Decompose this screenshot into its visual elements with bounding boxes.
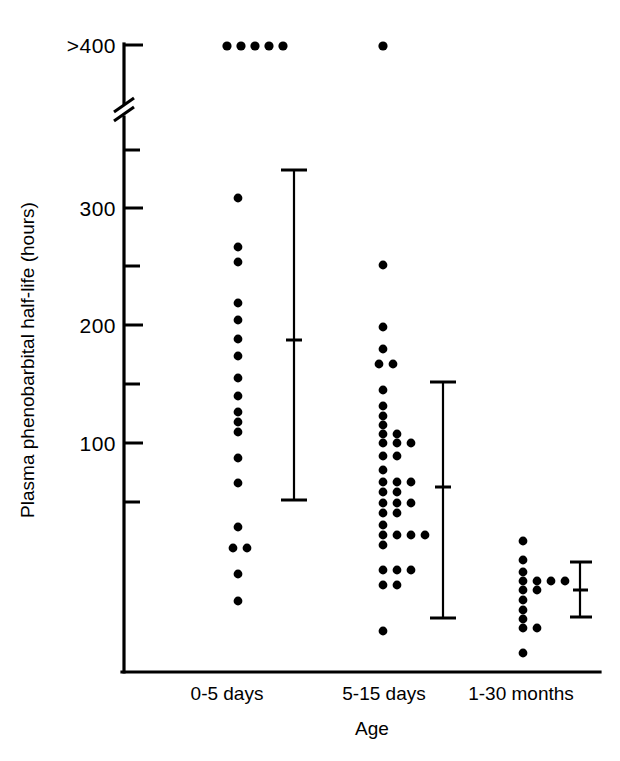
data-point xyxy=(234,374,243,383)
data-point xyxy=(561,577,570,586)
data-point xyxy=(393,488,402,497)
data-point xyxy=(234,194,243,203)
data-point xyxy=(234,454,243,463)
data-point xyxy=(264,41,273,50)
data-point xyxy=(407,531,416,540)
data-point xyxy=(229,544,238,553)
data-point xyxy=(379,509,388,518)
y-tick-label-300: 300 xyxy=(79,197,116,220)
data-point xyxy=(234,352,243,361)
data-point xyxy=(393,478,402,487)
data-point xyxy=(379,402,388,411)
data-point xyxy=(379,466,388,475)
x-axis-title: Age xyxy=(355,718,389,739)
data-point xyxy=(393,452,402,461)
data-point xyxy=(393,499,402,508)
data-point xyxy=(533,586,542,595)
markers-group-0 xyxy=(229,194,252,606)
data-point xyxy=(234,523,243,532)
data-point xyxy=(393,566,402,575)
data-point xyxy=(547,577,556,586)
data-point xyxy=(250,41,259,50)
data-point xyxy=(389,360,398,369)
data-point xyxy=(393,439,402,448)
data-point xyxy=(519,606,528,615)
data-point xyxy=(379,478,388,487)
data-point xyxy=(234,299,243,308)
data-point xyxy=(234,335,243,344)
data-point xyxy=(519,586,528,595)
error-bar-0 xyxy=(281,170,307,500)
x-category-label-1: 5-15 days xyxy=(342,683,425,704)
data-point xyxy=(379,531,388,540)
data-point xyxy=(222,41,231,50)
data-point xyxy=(243,544,252,553)
error-bar-2 xyxy=(570,562,592,617)
series-group-1-30-months xyxy=(519,537,592,658)
markers-group-2 xyxy=(519,537,570,658)
data-point xyxy=(393,509,402,518)
data-point xyxy=(378,41,387,50)
data-point xyxy=(519,615,528,624)
data-point xyxy=(234,597,243,606)
data-point xyxy=(234,479,243,488)
series-group-0-5-days xyxy=(222,41,307,605)
data-point xyxy=(533,624,542,633)
data-point xyxy=(379,323,388,332)
data-point xyxy=(379,581,388,590)
data-point xyxy=(519,577,528,586)
y-tick-label-400: >400 xyxy=(67,34,116,57)
data-point xyxy=(234,258,243,267)
data-point xyxy=(379,627,388,636)
data-point xyxy=(393,531,402,540)
data-point xyxy=(519,649,528,658)
data-point xyxy=(234,316,243,325)
data-point xyxy=(407,566,416,575)
data-point xyxy=(393,581,402,590)
data-point xyxy=(278,41,287,50)
offscale-markers-group-1 xyxy=(378,41,387,50)
data-point xyxy=(519,556,528,565)
data-point xyxy=(379,566,388,575)
data-point xyxy=(407,499,416,508)
y-tick-label-200: 200 xyxy=(79,314,116,337)
data-point xyxy=(407,478,416,487)
y-axis-title: Plasma phenobarbital half-life (hours) xyxy=(17,202,38,518)
scatter-plot: >400 300 200 100 0-5 days 5-15 days 1-30… xyxy=(0,0,620,761)
data-point xyxy=(379,521,388,530)
offscale-markers-group-0 xyxy=(222,41,287,50)
data-point xyxy=(379,430,388,439)
data-point xyxy=(379,499,388,508)
data-point xyxy=(421,531,430,540)
data-point xyxy=(379,541,388,550)
data-point xyxy=(234,428,243,437)
data-point xyxy=(519,568,528,577)
data-point xyxy=(234,570,243,579)
data-point xyxy=(379,421,388,430)
data-point xyxy=(379,439,388,448)
data-point xyxy=(379,345,388,354)
error-bar-1 xyxy=(430,382,456,618)
x-category-label-0: 0-5 days xyxy=(191,683,264,704)
data-point xyxy=(379,386,388,395)
y-tick-label-100: 100 xyxy=(79,432,116,455)
data-point xyxy=(234,408,243,417)
x-category-label-2: 1-30 months xyxy=(468,683,574,704)
data-point xyxy=(375,360,384,369)
data-point xyxy=(519,596,528,605)
series-group-5-15-days xyxy=(375,41,456,635)
data-point xyxy=(407,439,416,448)
data-point xyxy=(519,537,528,546)
data-point xyxy=(234,243,243,252)
data-point xyxy=(236,41,245,50)
data-point xyxy=(379,488,388,497)
markers-group-1 xyxy=(375,261,430,636)
data-point xyxy=(393,430,402,439)
data-point xyxy=(234,392,243,401)
data-point xyxy=(379,261,388,270)
data-point xyxy=(234,418,243,427)
data-point xyxy=(519,624,528,633)
data-point xyxy=(379,412,388,421)
data-point xyxy=(533,577,542,586)
data-point xyxy=(379,452,388,461)
